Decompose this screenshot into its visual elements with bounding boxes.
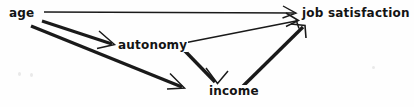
edge-age-to-income: [31, 26, 185, 89]
edge-age-to-job-satisfaction: [44, 6, 296, 18]
node-label-job-satisfaction: job satisfaction: [301, 7, 411, 20]
path-diagram: age autonomy income job satisfaction: [0, 0, 414, 107]
edge-autonomy-to-income: [184, 50, 228, 84]
edge-autonomy-to-job-satisfaction: [179, 13, 299, 44]
scan-speckle: [30, 73, 33, 77]
node-label-age: age: [8, 7, 35, 20]
scan-speckle: [372, 66, 375, 69]
scan-speckle: [18, 72, 21, 76]
edge-income-to-job-satisfaction: [236, 24, 306, 93]
node-label-autonomy: autonomy: [117, 39, 188, 52]
node-label-income: income: [208, 85, 260, 98]
